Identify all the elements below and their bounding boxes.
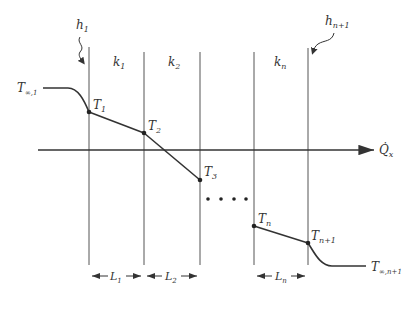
node-T1 [87,110,92,115]
layer-2-profile [144,133,200,180]
label-Ln: Ln [274,270,287,285]
composite-wall-diagram: h1 hn+1 k1 k2 kn T∞,1 T1 T2 T3 Tn Tn+1 T… [0,0,413,309]
layer-n-profile [254,226,308,243]
label-T-inf-1: T∞,1 [17,81,38,97]
layer-1-profile [89,112,144,133]
temperature-nodes [87,110,311,246]
label-kn: kn [274,55,286,71]
label-Tn1: Tn+1 [311,229,336,245]
label-L2: L2 [164,270,177,285]
label-T-inf-n1: T∞,n+1 [371,260,402,276]
node-T3 [198,178,203,183]
label-k1: k1 [113,55,125,71]
ellipsis-dots [206,197,248,201]
node-Tn [252,224,257,229]
label-h1: h1 [76,18,89,34]
label-heat-flow: Q̇x [379,142,394,159]
diagram-svg: h1 hn+1 k1 k2 kn T∞,1 T1 T2 T3 Tn Tn+1 T… [0,0,413,309]
label-k2: k2 [168,55,180,71]
label-T3: T3 [204,165,217,181]
label-T2: T2 [148,119,161,135]
h1-pointer-arrow [79,37,83,62]
label-hn1: hn+1 [325,14,350,30]
left-fluid-profile [43,88,89,112]
right-fluid-profile [308,243,366,266]
label-T1: T1 [93,98,106,114]
label-Tn: Tn [258,212,271,228]
hn1-pointer-arrow [313,33,334,52]
node-T2 [142,131,147,136]
label-L1: L1 [109,270,122,285]
node-Tn1 [306,241,311,246]
